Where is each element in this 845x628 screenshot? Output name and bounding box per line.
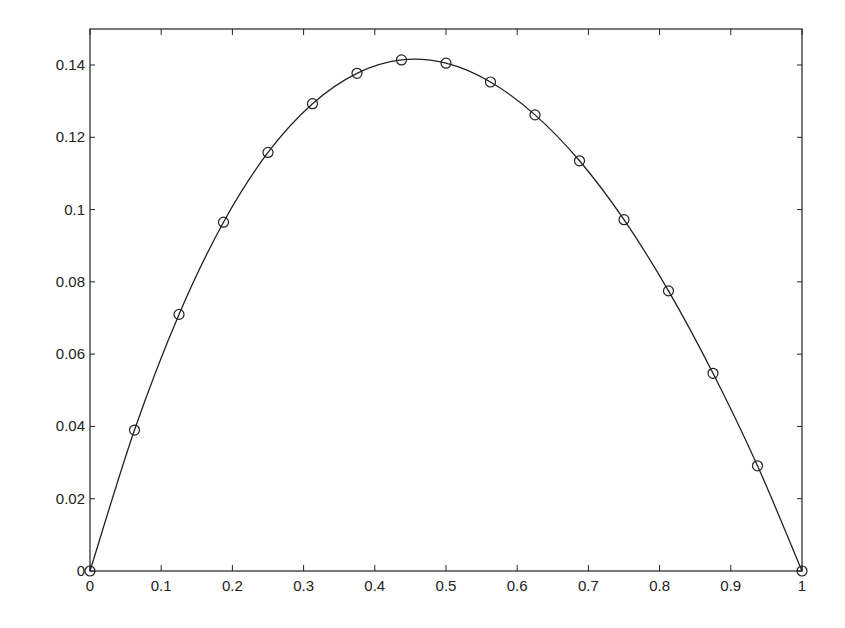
y-tick-label: 0.1: [64, 201, 85, 218]
x-tick-label: 0.6: [507, 577, 528, 594]
plot-frame: [90, 29, 802, 571]
y-axis: 00.020.040.060.080.10.120.14: [56, 56, 802, 579]
x-tick-label: 0.8: [649, 577, 670, 594]
y-tick-label: 0.14: [56, 56, 85, 73]
x-tick-label: 0.3: [293, 577, 314, 594]
x-tick-label: 0.1: [151, 577, 172, 594]
line-chart: 00.020.040.060.080.10.120.14 00.10.20.30…: [0, 0, 845, 628]
y-tick-label: 0: [77, 562, 85, 579]
y-tick-label: 0.08: [56, 273, 85, 290]
x-tick-label: 0.7: [578, 577, 599, 594]
x-axis: 00.10.20.30.40.50.60.70.80.91: [86, 29, 806, 594]
y-tick-label: 0.06: [56, 345, 85, 362]
x-tick-label: 1: [798, 577, 806, 594]
y-tick-label: 0.04: [56, 417, 85, 434]
x-tick-label: 0.4: [364, 577, 385, 594]
data-markers: [85, 55, 807, 576]
data-curve: [90, 59, 802, 571]
y-tick-label: 0.12: [56, 128, 85, 145]
y-tick-label: 0.02: [56, 490, 85, 507]
x-tick-label: 0: [86, 577, 94, 594]
x-tick-label: 0.5: [436, 577, 457, 594]
x-tick-label: 0.9: [720, 577, 741, 594]
x-tick-label: 0.2: [222, 577, 243, 594]
